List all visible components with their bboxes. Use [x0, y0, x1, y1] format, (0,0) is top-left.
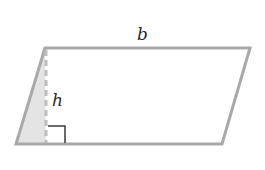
height-label: h [52, 90, 63, 110]
parallelogram-diagram: b h [0, 0, 265, 170]
base-label: b [137, 24, 148, 44]
right-angle-marker [48, 126, 65, 143]
